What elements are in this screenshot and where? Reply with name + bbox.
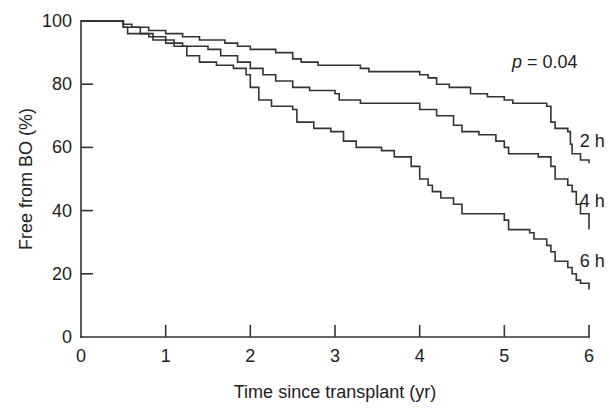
p-value-annotation: p = 0.04 [511,52,578,72]
p-symbol: p [511,52,522,72]
x-tick-label: 3 [330,346,340,366]
x-tick-label: 0 [76,346,86,366]
y-tick-label: 80 [52,74,72,94]
y-ticks: 020406080100 [42,11,93,347]
y-axis-label: Free from BO (%) [16,108,36,250]
x-axis-label: Time since transplant (yr) [234,382,436,402]
survival-chart: 020406080100 0123456 Time since transpla… [0,0,610,417]
x-tick-label: 4 [415,346,425,366]
y-tick-label: 40 [52,201,72,221]
y-tick-label: 20 [52,264,72,284]
x-tick-label: 2 [245,346,255,366]
series-label: 2 h [580,131,605,151]
series-label: 4 h [580,191,605,211]
x-ticks: 0123456 [76,325,594,366]
series-label: 6 h [580,251,605,271]
series-labels: 2 h4 h6 h [580,131,605,271]
p-value: = 0.04 [522,52,578,72]
x-tick-label: 6 [584,346,594,366]
y-tick-label: 100 [42,11,72,31]
x-tick-label: 1 [161,346,171,366]
y-tick-label: 60 [52,137,72,157]
y-tick-label: 0 [62,327,72,347]
x-tick-label: 5 [499,346,509,366]
